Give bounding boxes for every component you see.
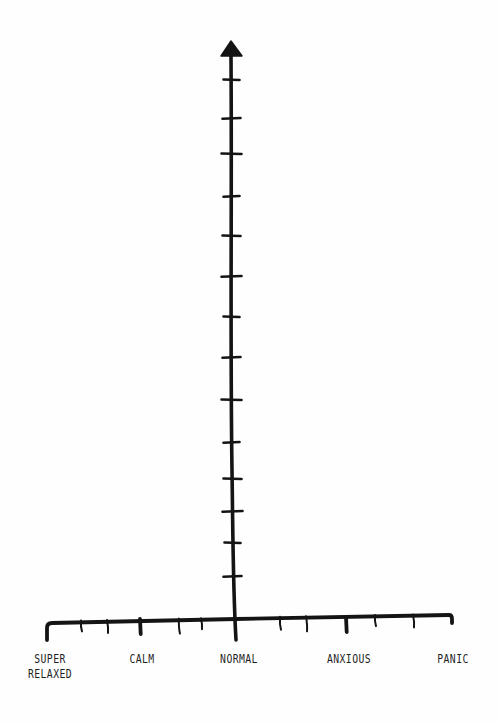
chart-canvas: SUPER RELAXED CALM NORMAL ANXIOUS PANIC — [0, 0, 499, 724]
y-axis-tick — [225, 543, 241, 544]
y-axis-tick — [224, 80, 240, 81]
x-label-calm: CALM — [129, 652, 154, 667]
x-label-super-relaxed: SUPER RELAXED — [28, 652, 72, 682]
y-axis-tick — [224, 317, 240, 318]
x-axis — [47, 614, 452, 640]
x-axis-minor-tick — [201, 618, 202, 629]
x-axis-minor-tick — [179, 619, 180, 634]
x-label-anxious: ANXIOUS — [327, 652, 371, 667]
y-axis-tick — [222, 400, 242, 401]
x-label-panic: PANIC — [437, 652, 469, 667]
y-axis-tick — [224, 196, 240, 197]
y-axis-tick — [223, 357, 241, 358]
x-axis-minor-tick — [107, 620, 108, 633]
x-axis-minor-tick — [413, 614, 414, 627]
x-axis-minor-tick — [81, 620, 82, 631]
y-axis-tick — [223, 236, 241, 237]
x-axis-minor-tick — [375, 615, 376, 626]
y-axis-tick — [223, 118, 241, 119]
y-axis — [221, 41, 243, 640]
y-axis-tick — [222, 154, 242, 155]
x-label-normal: NORMAL — [220, 652, 258, 667]
x-axis-minor-tick — [306, 616, 307, 631]
x-axis-major-tick — [140, 619, 141, 634]
y-axis-line — [231, 56, 236, 640]
arrow-up-icon — [221, 41, 242, 56]
y-axis-tick — [224, 576, 242, 577]
x-axis-minor-tick — [280, 617, 281, 630]
y-axis-tick — [224, 442, 240, 443]
y-axis-tick — [224, 479, 242, 480]
y-axis-tick — [222, 276, 242, 277]
axes-drawing — [0, 0, 499, 724]
y-axis-tick — [223, 511, 243, 512]
x-axis-major-tick — [346, 617, 347, 632]
